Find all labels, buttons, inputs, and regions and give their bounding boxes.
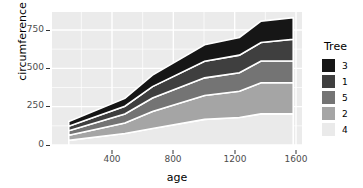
legend-label-3: 3 (342, 61, 348, 71)
legend-title: Tree (324, 40, 363, 53)
legend-item-tree-5: 5 (322, 90, 363, 105)
y-tick-mark-250 (46, 106, 50, 107)
legend-rows: 31524 (322, 58, 363, 137)
y-tick-mark-500 (46, 68, 50, 69)
plot-svg (52, 12, 302, 145)
area-series-group (69, 18, 293, 145)
chart-root: circumference age 750 500 250 0 400 800 … (0, 0, 363, 188)
legend-label-1: 1 (342, 77, 348, 87)
legend-key-swatch-2 (322, 107, 335, 120)
legend-label-5: 5 (342, 93, 348, 103)
legend-item-tree-1: 1 (322, 74, 363, 89)
legend-key-swatch-5 (322, 91, 335, 104)
legend-label-2: 2 (342, 109, 348, 119)
legend: Tree 31524 (322, 40, 363, 138)
legend-key-swatch-4 (322, 123, 335, 136)
legend-item-tree-4: 4 (322, 122, 363, 137)
legend-key-swatch-3 (322, 59, 335, 72)
y-axis-title: circumference (16, 0, 29, 102)
legend-key-swatch-1 (322, 75, 335, 88)
y-tick-mark-0 (46, 145, 50, 146)
legend-label-4: 4 (342, 125, 348, 135)
x-axis-title: age (52, 171, 302, 184)
legend-item-tree-2: 2 (322, 106, 363, 121)
legend-item-tree-3: 3 (322, 58, 363, 73)
plot-panel (52, 12, 302, 145)
y-tick-mark-750 (46, 30, 50, 31)
